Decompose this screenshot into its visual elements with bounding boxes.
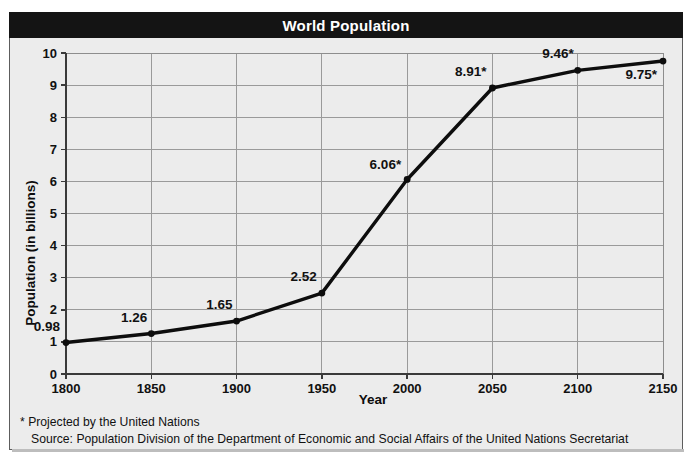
plot-area-wrapper: 012345678910 180018501900195020002050210… bbox=[9, 38, 683, 412]
y-tick-label: 1 bbox=[50, 334, 57, 349]
x-tick-label: 1850 bbox=[137, 381, 166, 396]
world-population-line-chart: 012345678910 180018501900195020002050210… bbox=[9, 38, 683, 412]
data-point-marker bbox=[489, 85, 496, 92]
data-point-marker bbox=[148, 330, 155, 337]
x-tick-label: 2150 bbox=[649, 381, 678, 396]
data-point-marker bbox=[404, 176, 411, 183]
y-tick-label: 5 bbox=[50, 206, 57, 221]
x-tick-label: 1950 bbox=[307, 381, 336, 396]
data-point-label: 9.75* bbox=[625, 67, 657, 82]
y-tick-label: 9 bbox=[50, 78, 57, 93]
y-tick-label: 6 bbox=[50, 174, 57, 189]
data-point-label: 8.91* bbox=[455, 64, 487, 79]
data-point-marker bbox=[63, 339, 70, 346]
y-tick-label: 0 bbox=[50, 367, 57, 382]
y-tick-label: 7 bbox=[50, 142, 57, 157]
x-tick-label: 2050 bbox=[478, 381, 507, 396]
chart-title-bar: World Population bbox=[9, 12, 683, 38]
data-point-marker bbox=[660, 58, 667, 65]
chart-title: World Population bbox=[282, 17, 409, 34]
y-tick-label: 2 bbox=[50, 302, 57, 317]
x-tick-label: 1900 bbox=[222, 381, 251, 396]
y-axis-title: Population (in billions) bbox=[23, 180, 38, 325]
x-tick-label: 2100 bbox=[563, 381, 592, 396]
x-axis-title: Year bbox=[359, 392, 388, 407]
data-point-marker bbox=[318, 290, 325, 297]
data-point-label: 6.06* bbox=[370, 157, 402, 172]
y-tick-label: 8 bbox=[50, 110, 57, 125]
data-point-label: 2.52 bbox=[291, 269, 317, 284]
data-point-label: 1.65 bbox=[206, 297, 233, 312]
grid-layer bbox=[66, 53, 663, 374]
data-point-marker bbox=[574, 67, 581, 74]
projection-footnote: * Projected by the United Nations bbox=[20, 414, 670, 431]
x-tick-label: 1800 bbox=[52, 381, 81, 396]
source-note: Source: Population Division of the Depar… bbox=[20, 431, 670, 448]
chart-notes: * Projected by the United Nations Source… bbox=[20, 414, 670, 448]
y-tick-label: 10 bbox=[43, 46, 57, 61]
data-point-label: 1.26 bbox=[121, 310, 148, 325]
y-tick-label: 3 bbox=[50, 270, 57, 285]
x-tick-label: 2000 bbox=[393, 381, 422, 396]
data-point-label: 9.46* bbox=[542, 46, 574, 61]
chart-page: World Population 012345678910 1800185019… bbox=[0, 0, 693, 462]
y-tick-label: 4 bbox=[50, 238, 58, 253]
data-point-marker bbox=[233, 318, 240, 325]
